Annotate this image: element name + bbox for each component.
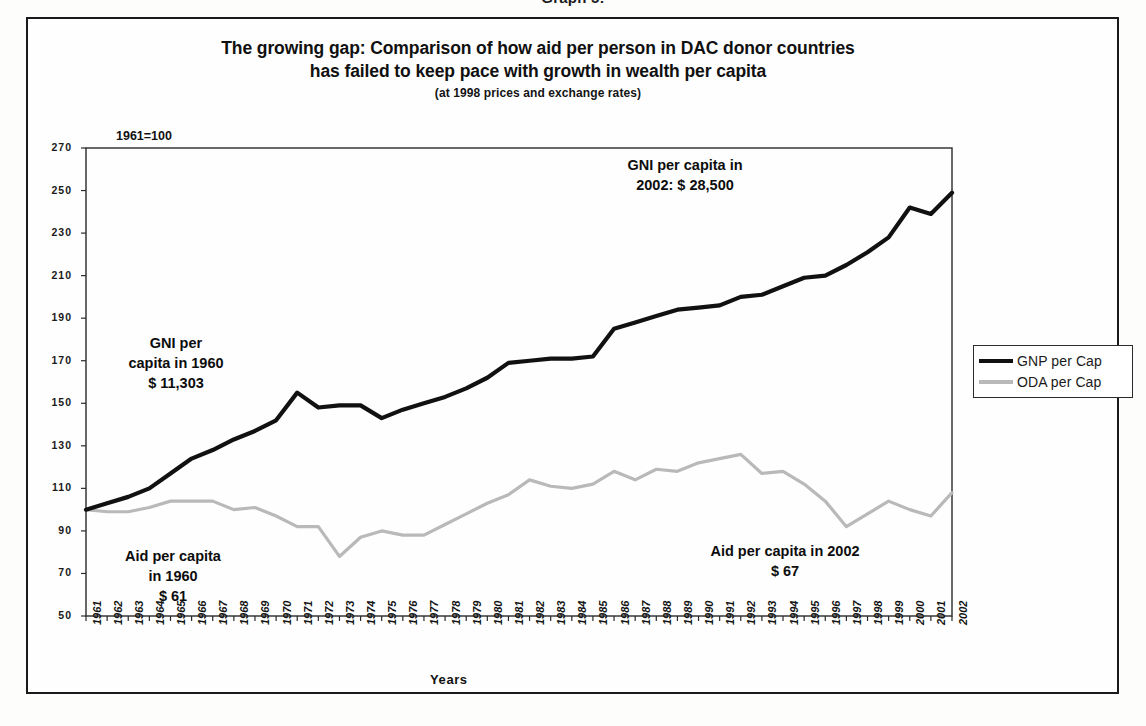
x-tick-label: 2001: [935, 601, 947, 625]
y-tick-label: 70: [38, 566, 72, 578]
x-tick-label: 1991: [724, 601, 736, 625]
annotation-gni-2002: GNI per capita in 2002: $ 28,500: [560, 155, 810, 195]
annotation-aid-2002-line-2: $ 67: [660, 561, 910, 581]
y-tick-label: 170: [38, 354, 72, 366]
legend-item-gnp[interactable]: GNP per Cap: [979, 350, 1127, 371]
y-tick-label: 250: [38, 184, 72, 196]
x-axis-title: Years: [430, 672, 468, 687]
x-tick-label: 1994: [788, 601, 800, 625]
x-tick-label: 1977: [428, 601, 440, 625]
x-tick-label: 1990: [703, 601, 715, 625]
annotation-gni-2002-line-1: GNI per capita in: [560, 155, 810, 175]
y-tick-label: 210: [38, 269, 72, 281]
legend-label-gnp: GNP per Cap: [1017, 353, 1102, 369]
x-tick-label: 1997: [851, 601, 863, 625]
x-tick-label: 1989: [682, 601, 694, 625]
chart-title-line-1: The growing gap: Comparison of how aid p…: [88, 37, 988, 60]
x-tick-label: 1995: [809, 601, 821, 625]
y-tick-label: 270: [38, 141, 72, 153]
chart-title-line-2: has failed to keep pace with growth in w…: [88, 60, 988, 83]
y-axis-index-note: 1961=100: [116, 129, 172, 143]
annotation-aid-1960: Aid per capita in 1960 $ 61: [78, 546, 268, 606]
y-tick-label: 130: [38, 439, 72, 451]
y-tick-label: 150: [38, 396, 72, 408]
legend-label-oda: ODA per Cap: [1017, 374, 1101, 390]
legend-swatch-oda-icon: [979, 380, 1013, 384]
annotation-aid-1960-line-2: in 1960: [78, 566, 268, 586]
x-tick-label: 1973: [344, 601, 356, 625]
annotation-aid-1960-line-3: $ 61: [78, 586, 268, 606]
x-tick-label: 1996: [830, 601, 842, 625]
x-tick-label: 1979: [471, 601, 483, 625]
annotation-aid-1960-line-1: Aid per capita: [78, 546, 268, 566]
y-tick-label: 90: [38, 524, 72, 536]
y-tick-label: 110: [38, 481, 72, 493]
x-tick-label: 1970: [281, 601, 293, 625]
y-tick-label: 190: [38, 311, 72, 323]
x-tick-label: 1988: [661, 601, 673, 625]
x-tick-label: 1983: [555, 601, 567, 625]
annotation-gni-1960-line-2: capita in 1960: [86, 353, 266, 373]
annotation-gni-2002-line-2: 2002: $ 28,500: [560, 175, 810, 195]
x-tick-label: 1987: [640, 601, 652, 625]
x-tick-label: 1982: [534, 601, 546, 625]
chart-title-block: The growing gap: Comparison of how aid p…: [88, 37, 988, 100]
legend-swatch-gnp-icon: [979, 359, 1013, 363]
x-tick-label: 2000: [914, 601, 926, 625]
x-tick-label: 1974: [365, 601, 377, 625]
x-tick-label: 1980: [492, 601, 504, 625]
x-tick-label: 1978: [450, 601, 462, 625]
x-tick-label: 1976: [407, 601, 419, 625]
x-tick-label: 1993: [766, 601, 778, 625]
y-tick-label: 230: [38, 226, 72, 238]
chart-subtitle: (at 1998 prices and exchange rates): [88, 86, 988, 100]
x-tick-label: 1992: [745, 601, 757, 625]
annotation-gni-1960-line-3: $ 11,303: [86, 373, 266, 393]
x-tick-label: 2002: [957, 601, 969, 625]
x-tick-label: 1971: [302, 601, 314, 625]
chart-legend: GNP per Cap ODA per Cap: [973, 345, 1133, 398]
y-tick-label: 50: [38, 609, 72, 621]
graph-caption: Graph 5:: [0, 0, 1146, 6]
x-tick-label: 1972: [323, 601, 335, 625]
x-tick-label: 1984: [576, 601, 588, 625]
x-tick-label: 1985: [597, 601, 609, 625]
x-tick-label: 1986: [619, 601, 631, 625]
legend-item-oda[interactable]: ODA per Cap: [979, 371, 1127, 392]
x-tick-label: 1981: [513, 601, 525, 625]
annotation-aid-2002: Aid per capita in 2002 $ 67: [660, 541, 910, 581]
x-tick-label: 1999: [893, 601, 905, 625]
annotation-gni-1960: GNI per capita in 1960 $ 11,303: [86, 333, 266, 393]
x-tick-label: 1975: [386, 601, 398, 625]
annotation-aid-2002-line-1: Aid per capita in 2002: [660, 541, 910, 561]
scanned-page: Graph 5: The growing gap: Comparison of …: [0, 0, 1146, 726]
annotation-gni-1960-line-1: GNI per: [86, 333, 266, 353]
x-tick-label: 1998: [872, 601, 884, 625]
